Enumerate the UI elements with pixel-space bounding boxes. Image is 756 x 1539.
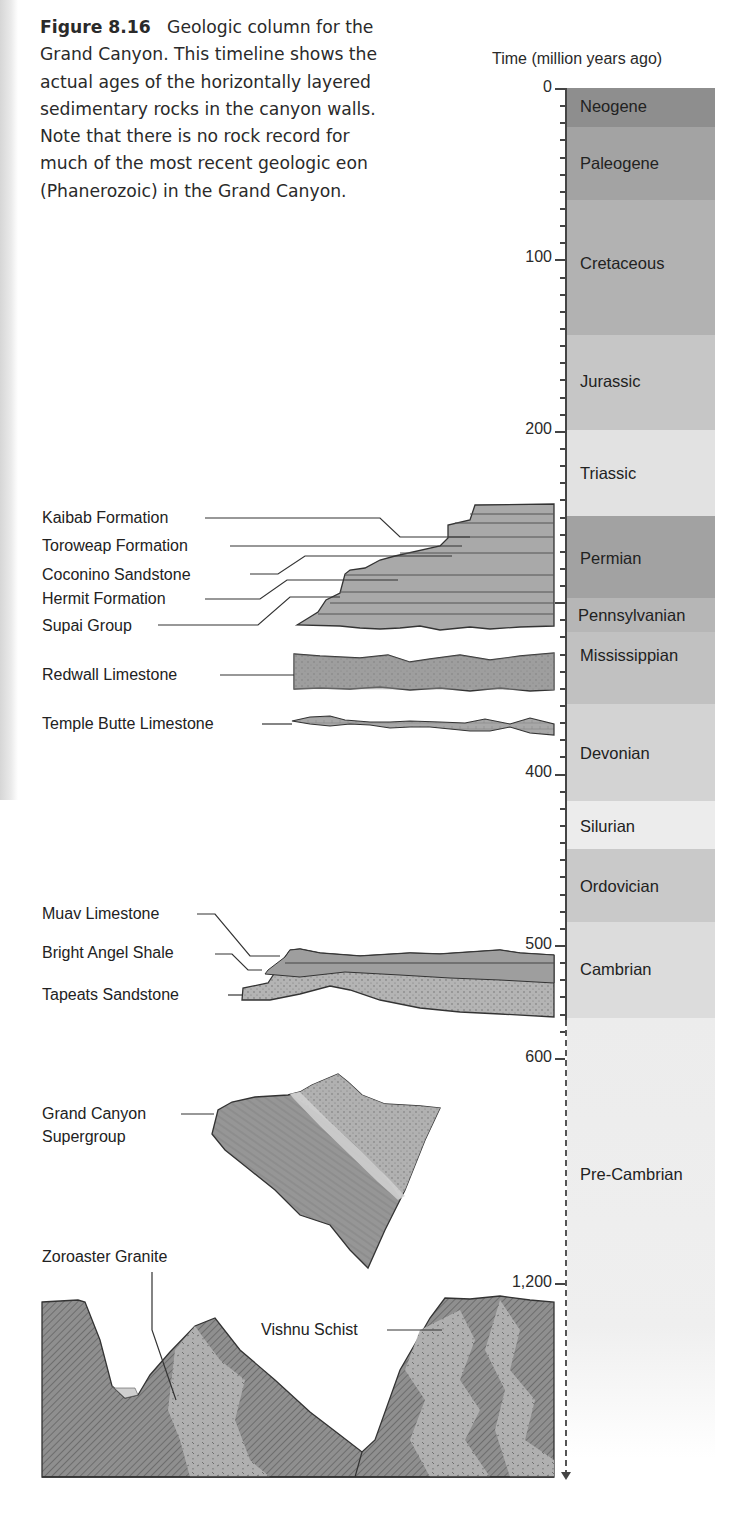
label-temple-butte-limestone: Temple Butte Limestone xyxy=(42,715,214,733)
label-vishnu-schist: Vishnu Schist xyxy=(261,1321,358,1339)
label-hermit-formation: Hermit Formation xyxy=(42,590,166,608)
label-toroweap-formation: Toroweap Formation xyxy=(42,537,188,555)
label-grand-canyon-supergroup-line1: Grand Canyon xyxy=(42,1105,146,1123)
label-coconino-sandstone: Coconino Sandstone xyxy=(42,566,191,584)
label-tapeats-sandstone: Tapeats Sandstone xyxy=(42,986,179,1004)
label-supai-group: Supai Group xyxy=(42,617,132,635)
label-grand-canyon-supergroup-line2: Supergroup xyxy=(42,1128,126,1146)
label-bright-angel-shale: Bright Angel Shale xyxy=(42,944,174,962)
label-muav-limestone: Muav Limestone xyxy=(42,905,159,923)
rock-strata-illustration xyxy=(0,0,756,1539)
label-zoroaster-granite: Zoroaster Granite xyxy=(42,1248,167,1266)
label-redwall-limestone: Redwall Limestone xyxy=(42,666,177,684)
label-kaibab-formation: Kaibab Formation xyxy=(42,509,168,527)
